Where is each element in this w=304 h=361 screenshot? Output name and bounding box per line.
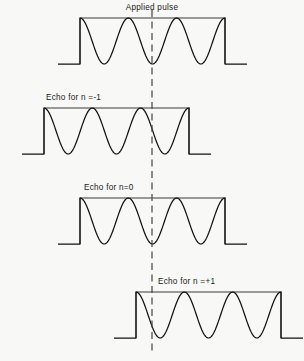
waveform-canvas: Applied pulseEcho for n =-1Echo for n=0E… [0, 0, 304, 361]
carrier-waveform [114, 292, 303, 338]
panel-label: Echo for n =-1 [46, 93, 101, 102]
pulse-envelope [44, 108, 189, 154]
panel-label: Echo for n=0 [84, 183, 134, 192]
panel-label: Applied pulse [126, 3, 179, 12]
panels-group [22, 18, 303, 338]
panel-label: Echo for n =+1 [158, 277, 215, 286]
carrier-waveform [22, 108, 211, 154]
waveform-panel [114, 292, 303, 338]
pulse-envelope [136, 292, 281, 338]
waveform-panel [22, 108, 211, 154]
echo-waveform-figure: Applied pulseEcho for n =-1Echo for n=0E… [0, 0, 304, 361]
